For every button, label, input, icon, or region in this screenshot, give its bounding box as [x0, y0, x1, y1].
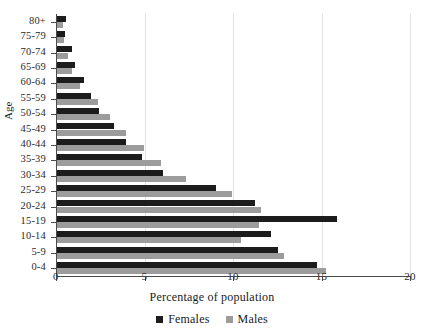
x-axis-tick-label: 20	[390, 270, 424, 282]
bar-males-25-29	[57, 191, 232, 197]
legend-label: Females	[168, 312, 209, 327]
y-axis-tick-label: 20-24	[0, 200, 46, 211]
y-axis-tick	[51, 160, 56, 161]
bar-females-50-54	[57, 108, 99, 114]
y-axis-tick	[51, 99, 56, 100]
bar-males-35-39	[57, 160, 161, 166]
bar-females-35-39	[57, 154, 142, 160]
y-axis-tick-label: 35-39	[0, 153, 46, 164]
y-axis-tick-label: 75-79	[0, 30, 46, 41]
bar-males-80plus	[57, 22, 63, 28]
y-axis-tick	[51, 114, 56, 115]
y-axis-title: Age	[2, 102, 14, 120]
y-axis-label-column: 80+75-7970-7465-6960-6455-5950-5445-4940…	[0, 14, 52, 276]
bar-males-15-19	[57, 222, 259, 228]
legend-swatch-icon	[156, 316, 163, 323]
bar-females-65-69	[57, 62, 75, 68]
bar-males-0-4	[57, 268, 326, 274]
legend-label: Males	[238, 312, 268, 327]
bar-females-75-79	[57, 31, 65, 37]
gridline	[322, 14, 323, 276]
y-axis-tick	[51, 83, 56, 84]
x-axis-tick-label: 15	[302, 270, 342, 282]
y-axis-tick	[51, 253, 56, 254]
y-axis-tick	[51, 68, 56, 69]
bar-females-70-74	[57, 46, 72, 52]
x-axis-tick-label: 5	[125, 270, 165, 282]
bar-females-55-59	[57, 93, 91, 99]
y-axis-tick	[51, 53, 56, 54]
bar-females-30-34	[57, 170, 163, 176]
bar-males-55-59	[57, 99, 98, 105]
bar-females-0-4	[57, 262, 317, 268]
bar-females-5-9	[57, 247, 278, 253]
y-axis-tick	[51, 207, 56, 208]
bar-males-10-14	[57, 237, 241, 243]
bar-males-65-69	[57, 68, 72, 74]
chart-legend: FemalesMales	[0, 312, 424, 327]
bar-females-60-64	[57, 77, 84, 83]
x-axis-tick-label: 10	[213, 270, 253, 282]
y-axis-tick	[51, 191, 56, 192]
bar-males-5-9	[57, 253, 284, 259]
gridline	[410, 14, 411, 276]
bar-females-15-19	[57, 216, 337, 222]
bar-males-20-24	[57, 207, 261, 213]
bar-males-30-34	[57, 176, 186, 182]
bar-males-75-79	[57, 37, 64, 43]
y-axis-tick-label: 25-29	[0, 184, 46, 195]
y-axis-tick	[51, 130, 56, 131]
y-axis-tick-label: 15-19	[0, 215, 46, 226]
bar-males-50-54	[57, 114, 110, 120]
bar-males-60-64	[57, 83, 80, 89]
legend-entry-males[interactable]: Males	[226, 312, 268, 327]
y-axis-tick-label: 5-9	[0, 246, 46, 257]
bar-females-40-44	[57, 139, 126, 145]
y-axis-tick-label: 80+	[0, 15, 46, 26]
population-pyramid-chart: 80+75-7970-7465-6960-6455-5950-5445-4940…	[0, 0, 424, 332]
bar-females-10-14	[57, 231, 271, 237]
y-axis-tick-label: 40-44	[0, 138, 46, 149]
bar-males-40-44	[57, 145, 144, 151]
legend-swatch-icon	[226, 316, 233, 323]
y-axis-tick-label: 45-49	[0, 123, 46, 134]
bar-females-80plus	[57, 16, 66, 22]
y-axis-tick-label: 60-64	[0, 76, 46, 87]
y-axis-tick	[51, 22, 56, 23]
bar-females-45-49	[57, 123, 114, 129]
y-axis-tick	[51, 222, 56, 223]
y-axis-tick-label: 65-69	[0, 61, 46, 72]
y-axis-tick-label: 30-34	[0, 169, 46, 180]
y-axis-tick-label: 70-74	[0, 46, 46, 57]
bar-females-20-24	[57, 200, 255, 206]
plot-area	[56, 14, 410, 276]
y-axis-tick	[51, 237, 56, 238]
bar-males-70-74	[57, 53, 68, 59]
y-axis-tick	[51, 176, 56, 177]
y-axis-tick	[51, 145, 56, 146]
x-axis-title: Percentage of population	[0, 290, 424, 305]
legend-entry-females[interactable]: Females	[156, 312, 209, 327]
y-axis-tick-label: 10-14	[0, 230, 46, 241]
bar-females-25-29	[57, 185, 216, 191]
bar-males-45-49	[57, 130, 126, 136]
y-axis-tick	[51, 37, 56, 38]
x-axis-tick-label: 0	[36, 270, 76, 282]
